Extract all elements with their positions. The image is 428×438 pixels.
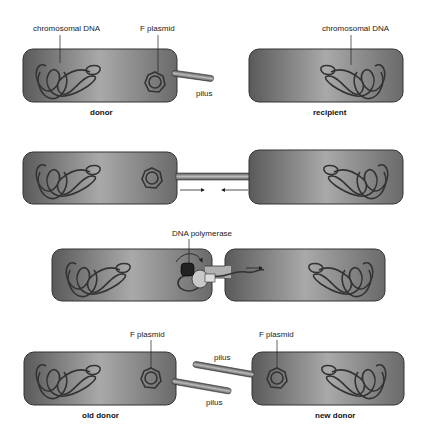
label-chromosomal-dna: chromosomal DNA <box>33 24 101 33</box>
caption-donor: donor <box>90 108 113 117</box>
caption-new-donor: new donor <box>315 411 355 420</box>
label-pilus: pilus <box>196 89 212 98</box>
stage-2 <box>23 150 403 204</box>
stage-1: chromosomal DNA F plasmid pilus donor ch… <box>23 24 403 117</box>
stage-3: DNA polymerase <box>52 229 385 301</box>
label-f-plasmid: F plasmid <box>140 24 175 33</box>
label-pilus-bottom: pilus <box>206 398 222 407</box>
stage-4: F plasmid pilus old donor F plasmid pilu… <box>24 330 404 420</box>
pilus <box>172 70 214 82</box>
label-f-plasmid-left: F plasmid <box>130 330 165 339</box>
pilus <box>176 173 250 180</box>
label-chromosomal-dna: chromosomal DNA <box>322 24 390 33</box>
conjugation-diagram: chromosomal DNA F plasmid pilus donor ch… <box>0 0 428 438</box>
caption-old-donor: old donor <box>82 411 119 420</box>
caption-recipient: recipient <box>313 108 347 117</box>
pilus-bottom <box>171 378 231 394</box>
recipient-cell <box>249 49 403 102</box>
new-donor-cell <box>252 352 404 405</box>
recipient-cell <box>249 150 403 204</box>
pilus-top <box>192 361 254 378</box>
label-dna-polymerase: DNA polymerase <box>172 229 233 238</box>
label-pilus-top: pilus <box>214 353 230 362</box>
dna-polymerase <box>181 263 194 276</box>
label-f-plasmid-right: F plasmid <box>259 330 294 339</box>
